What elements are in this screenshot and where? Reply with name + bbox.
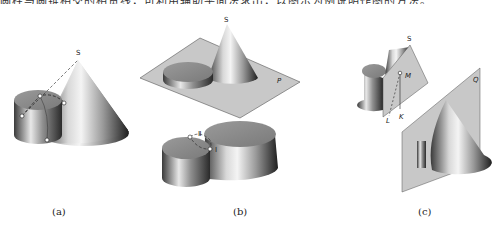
point-marker	[45, 138, 49, 142]
apex-label-s: S	[224, 16, 229, 24]
point-marker	[38, 94, 42, 98]
point-marker	[20, 114, 24, 118]
caption-c: (c)	[418, 206, 431, 217]
point-label-i: Ⅰ	[215, 146, 217, 154]
figure-a: S	[14, 49, 129, 146]
figure-b-top: S P	[140, 16, 300, 118]
point-label-l: L	[386, 117, 390, 125]
point-label-k: K	[399, 113, 405, 121]
cylinder-cap	[163, 62, 213, 82]
point-label-m: M	[405, 72, 411, 80]
figure-canvas: S S P Ⅱ Ⅰ S M L K Q	[0, 0, 496, 233]
point-ii	[188, 135, 192, 139]
cylinder-cutout	[417, 141, 426, 168]
figure-c-top: S M L K	[357, 35, 428, 125]
apex-label-s: S	[407, 35, 412, 43]
point-marker	[62, 101, 66, 105]
point-i	[208, 147, 212, 151]
caption-a: (a)	[52, 206, 66, 217]
cylinder-cap	[162, 137, 210, 159]
point-m	[398, 71, 402, 75]
caption-b: (b)	[233, 206, 247, 217]
plane-label-q: Q	[473, 76, 479, 84]
frustum-top	[204, 121, 276, 147]
cylinder-cap	[362, 64, 386, 78]
apex-label-s: S	[76, 49, 81, 57]
figure-b-bottom: Ⅱ Ⅰ	[162, 121, 278, 187]
point-label-ii: Ⅱ	[198, 130, 201, 138]
